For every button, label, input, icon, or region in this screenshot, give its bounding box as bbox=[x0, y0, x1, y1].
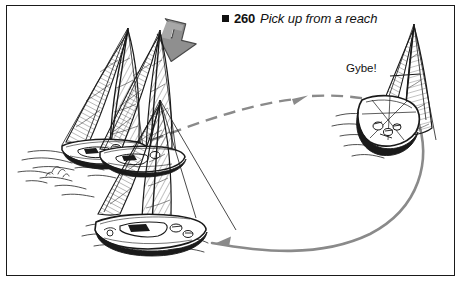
caption-number: 260 bbox=[234, 11, 255, 26]
figure-caption: 260 Pick up from a reach bbox=[222, 10, 377, 26]
sailboat-reaching bbox=[82, 100, 236, 256]
filled-square-bullet-icon bbox=[222, 15, 229, 22]
figure-container: 260 Pick up from a reach Gybe! bbox=[0, 0, 463, 283]
gybe-annotation-label: Gybe! bbox=[346, 62, 377, 74]
sailboat-stern-view bbox=[332, 24, 436, 158]
figure-illustration bbox=[0, 0, 463, 283]
caption-title: Pick up from a reach bbox=[260, 11, 377, 26]
